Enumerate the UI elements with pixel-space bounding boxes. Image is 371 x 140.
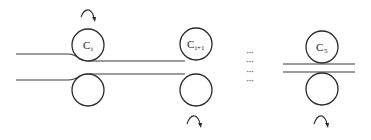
arrowhead-icon xyxy=(325,123,329,128)
label-ci1: C xyxy=(187,38,194,50)
stand-5: C 5 xyxy=(306,31,338,128)
label-c5-sub: 5 xyxy=(324,47,328,55)
roll-bottom-ci1 xyxy=(180,74,212,106)
ellipsis-more-stands: ··· ··· ··· ··· xyxy=(246,47,254,86)
rotation-arrow-icon xyxy=(314,116,327,124)
label-ci: C xyxy=(83,39,90,51)
rotation-arrow-icon xyxy=(187,116,200,124)
label-c5: C xyxy=(316,41,323,53)
arrowhead-icon xyxy=(92,17,96,22)
roll-bottom-c5 xyxy=(306,73,338,105)
rolling-mill-diagram: C i C i+1 ··· ··· ··· ··· C 5 xyxy=(0,0,371,140)
label-ci1-sub: i+1 xyxy=(195,44,205,52)
stand-i-plus-1: C i+1 xyxy=(180,28,212,128)
rotation-arrow-icon xyxy=(81,10,94,18)
roll-bottom-ci xyxy=(72,74,104,106)
svg-text:···: ··· xyxy=(246,75,254,86)
stand-i: C i xyxy=(72,10,104,106)
arrowhead-icon xyxy=(198,123,202,128)
label-ci-sub: i xyxy=(91,45,93,53)
